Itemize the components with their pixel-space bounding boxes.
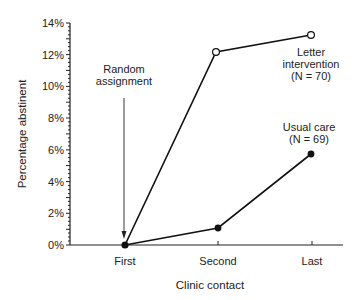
annotation-random-line2: assignment (96, 75, 152, 87)
usual-label-line2: (N = 69) (289, 133, 329, 145)
annotation-random-line1: Random (103, 63, 145, 75)
x-axis-title: Clinic contact (176, 279, 245, 291)
open-circle-marker (213, 49, 220, 56)
start-point-marker (121, 241, 128, 248)
x-tick-first: First (114, 255, 135, 267)
y-tick-14: 14% (42, 17, 64, 29)
x-tick-last: Last (302, 255, 323, 267)
y-tick-6: 6% (48, 144, 64, 156)
x-tick-second: Second (199, 255, 236, 267)
y-tick-0: 0% (48, 239, 64, 251)
arrow-down-icon (122, 231, 127, 239)
y-axis-title: Percentage abstinent (16, 79, 28, 188)
y-tick-8: 8% (48, 112, 64, 124)
letter-label-line2: intervention (283, 58, 340, 70)
y-tick-12: 12% (42, 49, 64, 61)
y-tick-10: 10% (42, 80, 64, 92)
usual-label-line1: Usual care (283, 121, 336, 133)
open-circle-marker (308, 32, 315, 39)
y-tick-2: 2% (48, 207, 64, 219)
y-tick-4: 4% (48, 176, 64, 188)
letter-label-line3: (N = 70) (291, 70, 331, 82)
filled-circle-marker (308, 151, 315, 158)
chart: 0% 2% 4% 6% 8% 10% 12% 14% Percentage ab… (0, 0, 361, 300)
filled-circle-marker (215, 225, 222, 232)
letter-label-line1: Letter (297, 46, 325, 58)
